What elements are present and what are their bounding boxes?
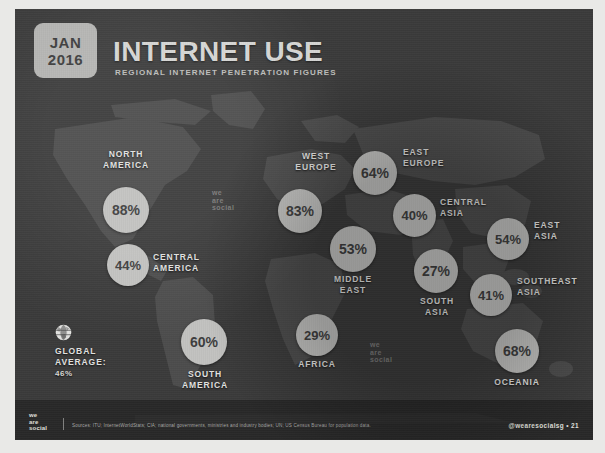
footer: wearesocial Sources: ITU; InternetWorldS… <box>15 400 593 440</box>
region-label: EASTEUROPE <box>403 147 477 168</box>
region-bubble: 88% <box>103 187 149 233</box>
page-title: INTERNET USE <box>113 36 323 68</box>
region-label: EASTASIA <box>534 220 593 241</box>
global-average-block: GLOBAL AVERAGE: 46% <box>55 324 106 378</box>
region-value: 64% <box>361 165 389 181</box>
globe-icon <box>55 324 72 341</box>
date-badge-month: JAN <box>50 34 82 51</box>
region-bubble: 29% <box>296 314 338 356</box>
region-bubble: 54% <box>487 218 529 260</box>
region-label: WESTEUROPE <box>277 151 355 172</box>
region-label: MIDDLEEAST <box>310 274 396 295</box>
region-bubble: 68% <box>495 329 539 373</box>
footer-divider <box>63 418 64 430</box>
page-subtitle: REGIONAL INTERNET PENETRATION FIGURES <box>115 68 337 77</box>
region-label: AFRICA <box>269 359 365 370</box>
footer-source-note: Sources: ITU; InternetWorldStats; CIA; n… <box>72 423 371 429</box>
region-value: 44% <box>115 257 141 272</box>
region-bubble: 60% <box>181 319 227 365</box>
footer-handle: @wearesocialsg • 21 <box>509 422 579 429</box>
region-label: SOUTHAMERICA <box>159 369 251 390</box>
global-average-value: 46% <box>55 369 106 378</box>
region-value: 53% <box>339 241 367 257</box>
region-bubble: 64% <box>353 151 397 195</box>
date-badge-year: 2016 <box>48 51 83 68</box>
region-value: 68% <box>503 343 531 359</box>
region-label: CENTRALAMERICA <box>153 252 233 273</box>
region-bubble: 44% <box>107 244 149 286</box>
region-label: CENTRALASIA <box>440 197 510 218</box>
region-label: OCEANIA <box>467 377 567 388</box>
date-badge: JAN 2016 <box>34 23 97 78</box>
we-are-social-watermark: wearesocial <box>370 341 392 364</box>
region-value: 29% <box>304 327 330 342</box>
global-average-label-line1: GLOBAL <box>55 346 106 357</box>
region-label: SOUTHASIA <box>397 296 477 317</box>
region-value: 54% <box>495 231 521 246</box>
region-bubble: 83% <box>278 189 322 233</box>
region-value: 40% <box>401 208 427 223</box>
infographic-slide: JAN 2016 INTERNET USE REGIONAL INTERNET … <box>15 9 593 440</box>
region-label: SOUTHEASTASIA <box>517 276 593 297</box>
global-average-label-line2: AVERAGE: <box>55 357 106 368</box>
region-bubble: 27% <box>414 249 458 293</box>
region-bubble: 53% <box>330 226 376 272</box>
region-value: 88% <box>112 202 140 218</box>
region-value: 41% <box>478 287 504 302</box>
region-value: 60% <box>190 334 218 350</box>
region-value: 27% <box>422 263 450 279</box>
region-label: NORTHAMERICA <box>78 149 174 170</box>
we-are-social-watermark: wearesocial <box>212 189 234 212</box>
region-value: 83% <box>286 203 314 219</box>
we-are-social-logo: wearesocial <box>29 412 47 431</box>
region-bubble: 40% <box>393 194 436 237</box>
